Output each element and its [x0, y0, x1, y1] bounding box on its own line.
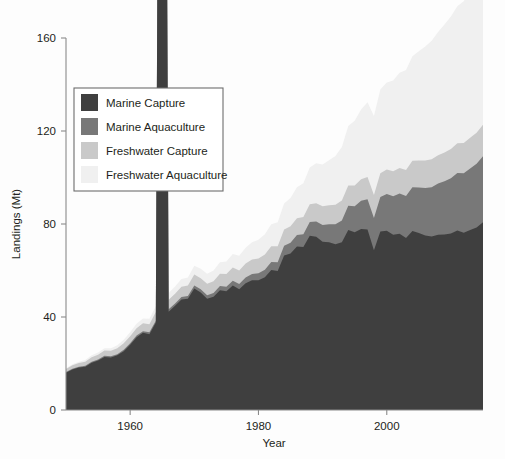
legend-label-marine-aquaculture: Marine Aquaculture [106, 121, 205, 133]
legend-swatch-marine-aquaculture [81, 118, 98, 135]
legend-swatch-marine-capture [81, 94, 98, 111]
y-tick-label: 40 [43, 311, 56, 323]
y-tick-label: 160 [37, 32, 56, 44]
legend-label-freshwater-capture: Freshwater Capture [106, 145, 208, 157]
x-tick-label: 1980 [246, 420, 272, 432]
x-axis-label: Year [262, 437, 285, 449]
x-tick-label: 1960 [117, 420, 143, 432]
stacked-area-chart: 04080120160 196019802000 Landings (Mt) Y… [0, 0, 505, 459]
chart-figure: 04080120160 196019802000 Landings (Mt) Y… [0, 0, 505, 459]
chart-legend: Marine CaptureMarine AquacultureFreshwat… [74, 88, 227, 191]
y-tick-label: 0 [50, 404, 56, 416]
legend-label-marine-capture: Marine Capture [106, 97, 185, 109]
y-tick-label: 80 [43, 218, 56, 230]
legend-label-freshwater-aquaculture: Freshwater Aquaculture [106, 169, 227, 181]
x-tick-label: 2000 [374, 420, 400, 432]
y-axis-label: Landings (Mt) [10, 189, 22, 259]
legend-swatch-freshwater-aquaculture [81, 166, 98, 183]
legend-swatch-freshwater-capture [81, 142, 98, 159]
y-tick-label: 120 [37, 125, 56, 137]
